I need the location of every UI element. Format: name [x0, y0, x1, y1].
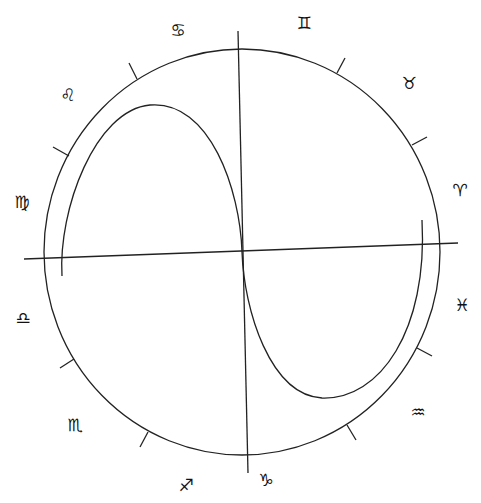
tick-mark [129, 63, 137, 79]
virgo-icon: ♍ [14, 192, 29, 212]
vertical-axis-line [238, 31, 248, 473]
tick-mark [337, 58, 345, 73]
s-curve [62, 105, 423, 398]
libra-icon: ♎ [15, 308, 30, 328]
aquarius-icon: ♒ [410, 402, 425, 422]
zodiac-diagram: ♋♌♍♎♏♐♑♒♓♈♉♊ [0, 0, 481, 503]
tick-mark [412, 137, 427, 145]
leo-icon: ♌ [60, 85, 75, 105]
tick-mark [53, 147, 69, 156]
tick-mark [417, 348, 432, 356]
sagittarius-icon: ♐ [178, 475, 193, 495]
cancer-icon: ♋ [170, 20, 185, 40]
pisces-icon: ♓ [454, 295, 469, 315]
taurus-icon: ♉ [401, 73, 416, 93]
aries-icon: ♈ [452, 180, 467, 200]
tick-mark [140, 432, 148, 447]
scorpio-icon: ♏ [67, 415, 82, 435]
capricorn-icon: ♑ [258, 470, 273, 490]
tick-mark [60, 359, 74, 368]
horizontal-axis-line [24, 243, 458, 259]
gemini-icon: ♊ [296, 13, 311, 33]
tick-mark [347, 425, 356, 440]
